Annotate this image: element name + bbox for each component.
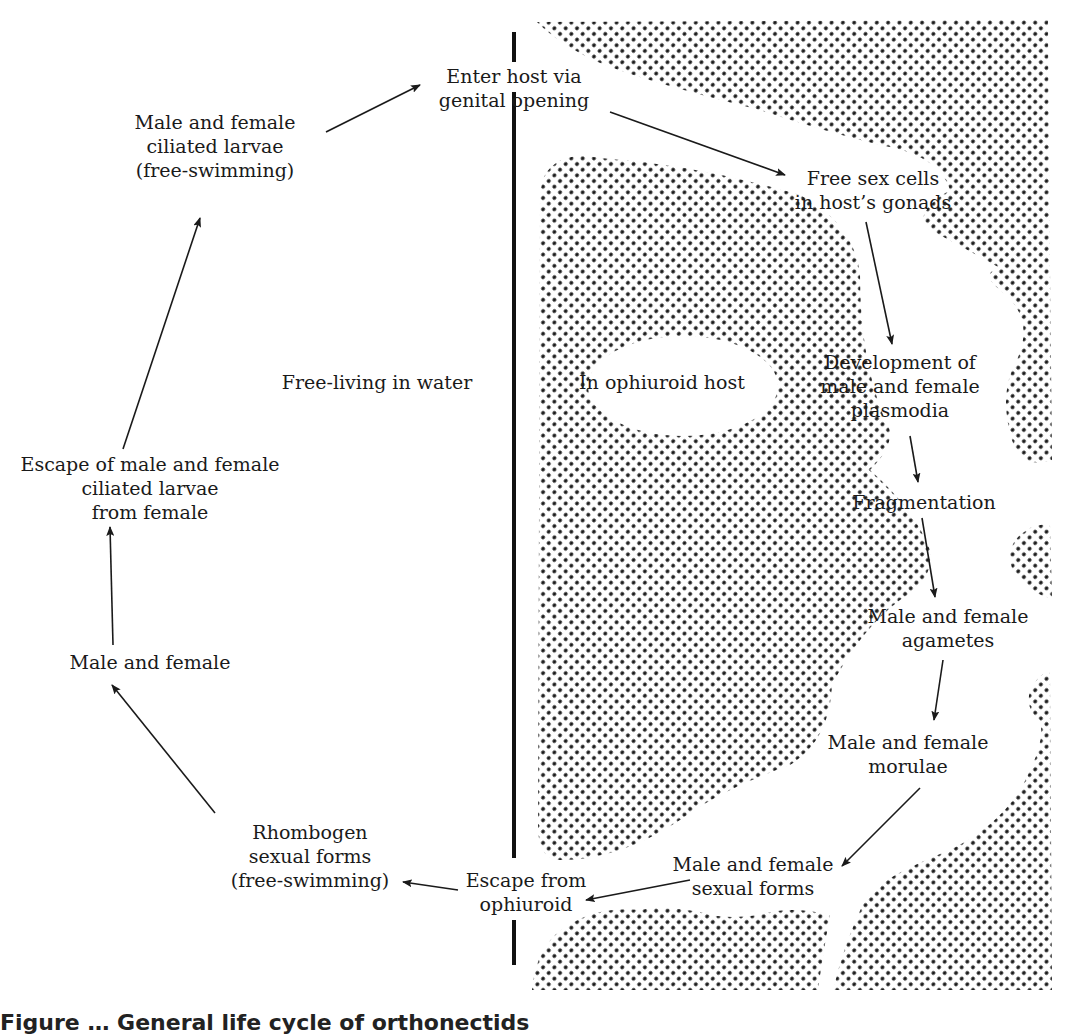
node-sexual-forms: Male and female sexual forms: [673, 852, 834, 900]
node-enter-host: Enter host via genital opening: [439, 64, 589, 112]
arrow-agametes-to-morulae: [934, 660, 943, 720]
region-label-host: In ophiuroid host: [579, 370, 745, 394]
node-escape-larvae: Escape of male and female ciliated larva…: [21, 452, 280, 524]
arrow-larvae-to-enter: [326, 85, 420, 132]
host-region-right-lower: [833, 672, 1052, 990]
arrow-rhombogen-to-malefemale: [112, 685, 215, 813]
node-escape-ophiuroid: Escape from ophiuroid: [466, 868, 587, 916]
node-rhombogen: Rhombogen sexual forms (free-swimming): [231, 820, 389, 892]
arrow-malefemale-to-escapelarvae: [110, 527, 113, 645]
node-agametes: Male and female agametes: [868, 604, 1029, 652]
region-label-free-living: Free-living in water: [282, 370, 472, 394]
host-region-bottom: [532, 908, 830, 990]
host-region-right-upper: [990, 265, 1052, 463]
node-plasmodia: Development of male and female plasmodia: [820, 350, 979, 422]
arrow-escapelarvae-to-larvae: [123, 218, 200, 449]
arrow-freecells-to-plasmodia: [866, 222, 892, 344]
node-ciliated-larvae: Male and female ciliated larvae (free-sw…: [135, 110, 296, 182]
node-free-sex-cells: Free sex cells in host’s gonads: [795, 166, 951, 214]
arrow-plasmodia-to-fragmentation: [910, 436, 918, 482]
arrow-escape-to-rhombogen: [403, 882, 458, 890]
host-region-right-mid: [1010, 524, 1052, 598]
arrow-morulae-to-sexualforms: [842, 788, 920, 866]
figure-caption: Figure … General life cycle of orthonect…: [0, 1010, 529, 1035]
node-fragmentation: Fragmentation: [852, 490, 996, 514]
node-morulae: Male and female morulae: [828, 730, 989, 778]
node-male-and-female: Male and female: [70, 650, 231, 674]
